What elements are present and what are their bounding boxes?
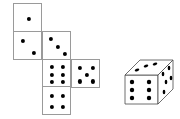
pip bbox=[50, 94, 54, 98]
pip bbox=[32, 51, 36, 55]
pip bbox=[50, 65, 54, 69]
pip bbox=[147, 96, 151, 100]
pip bbox=[162, 72, 165, 77]
pip bbox=[21, 39, 25, 43]
pip bbox=[61, 105, 65, 109]
net-face-right bbox=[71, 59, 100, 88]
pip bbox=[91, 65, 95, 69]
dice-figure bbox=[0, 0, 180, 119]
pip bbox=[165, 80, 168, 85]
net-face-top bbox=[13, 3, 42, 32]
pip bbox=[170, 76, 173, 81]
net-face-upper-left bbox=[13, 31, 42, 60]
die3d-svg bbox=[118, 50, 178, 112]
pip bbox=[50, 105, 54, 109]
pip bbox=[130, 96, 134, 100]
pip bbox=[50, 72, 54, 76]
pip bbox=[61, 65, 65, 69]
net-face-bottom bbox=[42, 86, 71, 115]
pip bbox=[84, 72, 88, 76]
pip bbox=[61, 80, 65, 84]
pip bbox=[78, 65, 82, 69]
pip bbox=[26, 16, 30, 20]
net-face-center bbox=[42, 59, 71, 88]
pip bbox=[147, 88, 151, 92]
net-face-upper-middle bbox=[42, 31, 71, 60]
pip bbox=[78, 79, 82, 83]
pip bbox=[130, 80, 134, 84]
pip bbox=[61, 94, 65, 98]
pip bbox=[163, 90, 166, 95]
pip bbox=[147, 80, 151, 84]
pip bbox=[50, 80, 54, 84]
pip bbox=[91, 79, 95, 83]
pip bbox=[48, 37, 52, 41]
pip bbox=[55, 44, 59, 48]
pip bbox=[130, 88, 134, 92]
pip bbox=[61, 72, 65, 76]
pip bbox=[63, 52, 67, 56]
pip bbox=[168, 66, 171, 71]
three-dimensional-die bbox=[118, 50, 178, 112]
